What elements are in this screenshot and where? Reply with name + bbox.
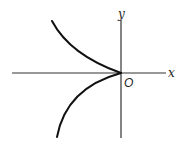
upper-curve-branch [52, 21, 121, 73]
lower-curve-branch [57, 73, 121, 137]
origin-label: O [124, 76, 133, 90]
cusp-diagram: x y O [0, 0, 182, 145]
y-axis-label: y [117, 7, 125, 21]
x-axis-label: x [168, 66, 175, 80]
